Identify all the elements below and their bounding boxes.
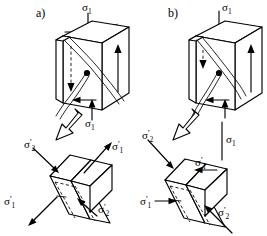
figure-canvas: a) σ1 σ6 [0,0,267,236]
sigma-sub: 2 [150,135,154,144]
sigma-sub: 1 [203,162,207,171]
panel-b-label: b) [168,6,178,20]
sigma-sub: 2 [226,212,230,221]
sigma-sub: 1 [228,7,232,16]
fracture-origin-dot-b [216,70,222,76]
stress-fracture-figure: a) σ1 σ6 [0,0,267,236]
sigma-sub: 2 [32,144,36,153]
panel-a-label: a) [36,6,45,20]
sigma-sub: 1 [91,123,95,132]
sigma-sub: 2 [106,209,110,218]
sigma-sub: 1 [148,201,152,210]
sigma-sub: 1 [12,201,16,210]
sigma-sub: 1 [88,7,92,16]
sigma-sub: 1 [232,139,236,148]
fracture-origin-dot-a [84,70,90,76]
sigma-sub: 1 [120,146,124,155]
